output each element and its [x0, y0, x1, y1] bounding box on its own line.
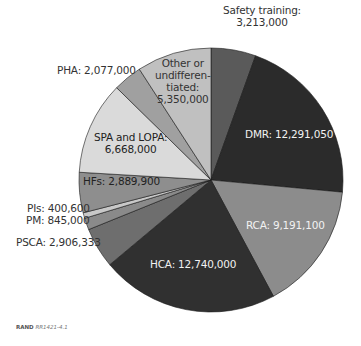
- label-spa-lopa: SPA and LOPA: 6,668,000: [94, 131, 167, 155]
- label-psca: PSCA: 2,906,333: [16, 236, 101, 248]
- label-rca: RCA: 9,191,100: [246, 219, 325, 231]
- label-safety-training: Safety training: 3,213,000: [223, 4, 301, 28]
- label-spa-lopa-name: SPA and LOPA:: [94, 131, 167, 143]
- label-other: Other or undifferen- tiated: 5,350,000: [155, 57, 211, 105]
- label-other-value: 5,350,000: [155, 93, 211, 105]
- label-pis: PIs: 400,600: [27, 202, 90, 214]
- label-dmr: DMR: 12,291,050: [245, 128, 333, 140]
- label-other-line2: undifferen-: [155, 69, 211, 81]
- label-hca: HCA: 12,740,000: [150, 258, 236, 270]
- label-safety-training-name: Safety training:: [223, 4, 301, 16]
- label-spa-lopa-value: 6,668,000: [94, 143, 167, 155]
- label-pm: PM: 845,000: [26, 214, 90, 226]
- label-pha: PHA: 2,077,000: [57, 64, 136, 76]
- source-id: RR1421-4.1: [35, 324, 67, 330]
- label-other-line1: Other or: [155, 57, 211, 69]
- label-other-line3: tiated:: [155, 81, 211, 93]
- pie-chart: [0, 0, 361, 346]
- source-org: RAND: [16, 324, 34, 330]
- source-note: RAND RR1421-4.1: [16, 324, 68, 330]
- label-safety-training-value: 3,213,000: [223, 16, 301, 28]
- label-hfs: HFs: 2,889,900: [83, 175, 160, 187]
